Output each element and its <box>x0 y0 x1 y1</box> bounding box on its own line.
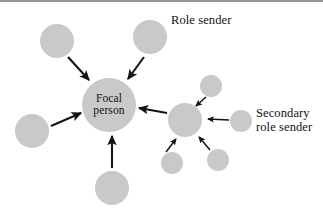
focal-person-label: Focal person <box>82 92 136 117</box>
role-sender-annotation: Role sender <box>171 13 231 27</box>
role-sender-upper-left <box>40 24 74 58</box>
secondary-bottom-right <box>207 149 229 171</box>
role-sender-hub-right <box>168 103 202 137</box>
arrow-left-to-focal <box>51 113 81 126</box>
secondary-role-sender-annotation: Secondary role sender <box>256 106 312 135</box>
role-sender-upper-right <box>133 20 167 54</box>
role-sender-bottom <box>95 171 129 205</box>
secondary-right <box>230 110 252 132</box>
arrow-secondary-top-to-hub <box>196 97 206 106</box>
arrow-secondary-bottom-left-to-hub <box>166 139 176 152</box>
arrow-hub-to-focal <box>139 108 167 113</box>
secondary-top <box>200 75 222 97</box>
focal-person-label-line1: Focal <box>82 92 136 104</box>
focal-person-label-line2: person <box>82 104 136 116</box>
role-set-diagram: Focal person Role sender Secondary role … <box>0 0 323 209</box>
secondary-bottom-left <box>161 152 183 174</box>
arrow-secondary-bottom-right-to-hub <box>199 137 210 150</box>
role-sender-left <box>15 114 49 148</box>
secondary-role-sender-annotation-line1: Secondary <box>256 106 312 120</box>
secondary-role-sender-annotation-line2: role sender <box>256 120 312 134</box>
arrow-upper-right-to-focal <box>128 57 144 79</box>
arrow-upper-left-to-focal <box>68 57 89 80</box>
diagram-canvas <box>0 0 323 209</box>
arrow-secondary-right-to-hub <box>208 119 229 120</box>
